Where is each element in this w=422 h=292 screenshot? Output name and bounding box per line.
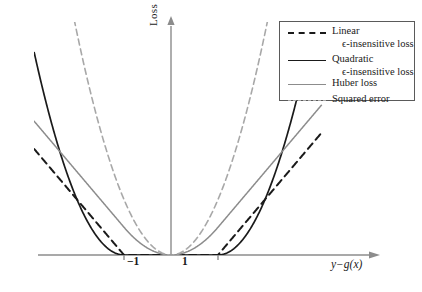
y-axis-label: Loss — [147, 4, 159, 26]
legend-label-1: Quadratic — [332, 53, 373, 64]
legend-swatch-0 — [288, 32, 326, 34]
legend-label-3: Squared error — [332, 93, 389, 104]
x-tick-label-neg1: −1 — [127, 255, 139, 267]
x-axis-label: y−g(x) — [331, 258, 362, 270]
x-axis-label-text: y−g( — [331, 258, 353, 270]
series-curve-2 — [34, 105, 321, 255]
chart-legend: Linearϵ-insensitive lossQuadraticϵ-insen… — [279, 21, 415, 101]
series-curve-1 — [34, 20, 315, 255]
series-curve-0 — [34, 133, 321, 255]
legend-label-0-line2: ϵ-insensitive loss — [342, 38, 414, 49]
legend-swatch-3 — [288, 100, 326, 101]
legend-swatch-1 — [288, 60, 326, 61]
loss-functions-chart: Loss y−g(x) −1 1 Linearϵ-insensitive los… — [0, 0, 422, 292]
legend-label-0: Linear — [332, 25, 359, 36]
legend-label-1-line2: ϵ-insensitive loss — [342, 66, 414, 77]
legend-label-2: Huber loss — [332, 77, 377, 88]
x-tick-label-pos1: 1 — [182, 255, 188, 267]
legend-swatch-2 — [288, 84, 326, 85]
